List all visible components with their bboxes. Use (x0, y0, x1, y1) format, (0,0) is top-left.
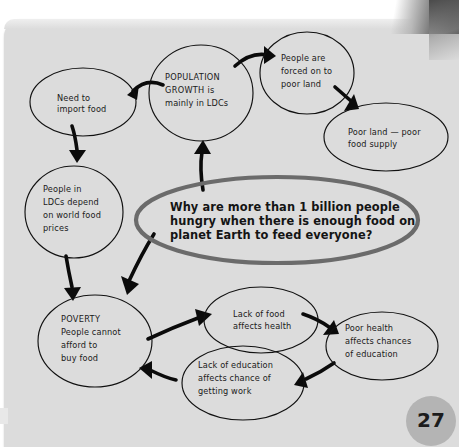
node-lack-of-food-line-1: Lack of food (233, 309, 285, 319)
edge-population-growth-to-need-to-import-food (127, 82, 163, 100)
node-population-growth-line-3: mainly in LDCs (165, 98, 228, 108)
node-lack-of-education[interactable]: ​ Lack of education affects chance of ge… (182, 346, 304, 420)
page-number-badge: 27 (406, 396, 456, 446)
node-people-in-ldcs[interactable]: People in LDCs depend on world food pric… (25, 166, 123, 258)
page-number: 27 (417, 410, 445, 432)
central-question-line-1: Why are more than 1 billion people (170, 200, 400, 214)
edge-need-to-import-food-to-people-in-ldcs (69, 126, 86, 163)
node-poor-health-line-2: affects chances (345, 336, 411, 346)
node-poor-health-line-1: Poor health (345, 323, 393, 333)
node-poor-health-line-3: of education (345, 349, 398, 359)
node-poor-land-line-2: food supply (348, 139, 397, 149)
node-people-in-ldcs-line-1: People in (43, 184, 82, 194)
node-poverty-line-4: buy food (61, 353, 98, 363)
edge-people-in-ldcs-to-poverty (64, 256, 81, 301)
central-question-line-2: hungry when there is enough food on (170, 214, 415, 228)
node-lack-of-education-line-1: Lack of education (198, 360, 273, 370)
node-population-growth-line-2: GROWTH is (165, 85, 215, 95)
node-people-in-ldcs-line-4: prices (43, 223, 69, 233)
edge-lack-of-food-affects-health-to-poor-health (303, 314, 339, 335)
edge-poor-health-to-lack-of-education (294, 363, 334, 388)
node-people-forced-line-1: People are (281, 53, 326, 63)
node-population-growth-line-1: POPULATION (165, 72, 220, 82)
node-lack-of-food-affects-health[interactable]: Lack of food affects health (204, 287, 318, 353)
node-poverty-line-1: POVERTY (61, 314, 101, 324)
node-need-to-import-food[interactable]: Need to import food (30, 68, 136, 136)
node-central-question[interactable]: Why are more than 1 billion people hungr… (136, 177, 418, 263)
edge-central-question-to-poverty (121, 234, 154, 295)
node-population-growth[interactable]: POPULATION GROWTH is mainly in LDCs (149, 45, 253, 141)
node-poverty-line-3: afford to (61, 340, 97, 350)
node-lack-of-education-line-3: getting work (198, 386, 252, 396)
node-poor-land-poor-food-supply[interactable]: Poor land — poor food supply (324, 103, 448, 171)
node-people-in-ldcs-line-2: LDCs depend (43, 197, 99, 207)
node-poverty[interactable]: POVERTY People cannot afford to buy food (38, 295, 152, 387)
node-poor-land-line-1: Poor land — poor (348, 127, 421, 137)
central-question-line-3: planet Earth to feed everyone? (170, 228, 373, 242)
node-poverty-line-2: People cannot (61, 327, 122, 337)
node-people-forced-line-2: forced on to (281, 66, 332, 76)
node-need-to-import-food-line-1: Need to (57, 93, 90, 103)
node-people-forced-line-3: poor land (281, 79, 321, 89)
edge-poverty-to-lack-of-food-affects-health (148, 309, 212, 339)
node-poor-health-affects-chances-of-education[interactable]: Poor health affects chances of education (326, 312, 438, 380)
textbook-page: Need to import food POPULATION GROWTH is… (0, 0, 459, 447)
node-need-to-import-food-line-2: import food (57, 104, 106, 114)
node-lack-of-education-line-2: affects chance of (198, 373, 272, 383)
concept-map-diagram: Need to import food POPULATION GROWTH is… (0, 0, 459, 447)
node-lack-of-food-line-2: affects health (233, 321, 291, 331)
node-people-forced-on-to-poor-land[interactable]: People are forced on to poor land (260, 32, 354, 114)
node-people-in-ldcs-line-3: on world food (43, 210, 101, 220)
